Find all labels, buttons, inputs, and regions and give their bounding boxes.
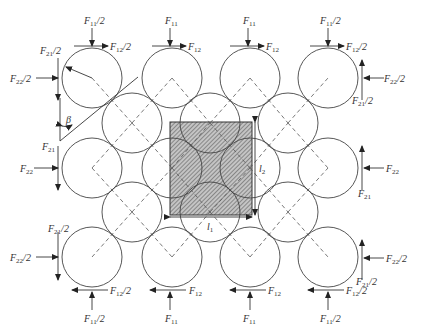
lattice-dashed-line <box>288 123 328 168</box>
label-F12-half-bottom-left: F12/2 <box>109 285 131 298</box>
lattice-dashed-line <box>210 78 250 123</box>
lattice-dashed-line <box>250 212 288 257</box>
lattice-dashed-line <box>92 123 132 168</box>
label-F21-half-left-bottom: F21/2 <box>47 223 69 236</box>
label-F22-half-right-top: F22/2 <box>383 73 405 86</box>
label-F22-half-right-bottom: F22/2 <box>385 253 407 266</box>
lattice-dashed-line <box>92 168 132 212</box>
dimension-l1: l1 <box>170 217 252 234</box>
label-F11-half-top-right: F11/2 <box>319 15 341 28</box>
lattice-dashed-line <box>172 78 210 123</box>
lattice-dashed-line <box>92 78 132 123</box>
lattice-dashed-line <box>288 78 328 123</box>
particle-packing-diagram: l2 l1 β F11/2 F12/2 F11 F12 F11 F12 F11/… <box>0 0 425 336</box>
label-F21-half-left-top: F21/2 <box>39 45 61 58</box>
label-F21-left-mid: F21 <box>41 141 56 154</box>
label-F11-half-bottom-left: F11/2 <box>83 313 105 326</box>
label-F11-bottom-3: F11 <box>242 313 256 326</box>
lattice-dashed-line <box>132 168 172 212</box>
label-F22-half-left-top: F22/2 <box>9 73 31 86</box>
label-F11-bottom-2: F11 <box>164 313 178 326</box>
label-F22-half-left-bottom: F22/2 <box>9 252 31 265</box>
particle-circle <box>298 48 358 108</box>
lattice-dashed-line <box>288 168 328 212</box>
label-F22-left-mid: F22 <box>19 163 34 176</box>
lattice-dashed-line <box>210 212 250 257</box>
lattice-dashed-line <box>250 78 288 123</box>
particle-circle <box>298 227 358 287</box>
radius-arrow <box>66 67 92 78</box>
lattice-dashed-line <box>132 123 172 168</box>
label-F11-half-bottom-right: F11/2 <box>319 313 341 326</box>
label-F11-top-2: F11 <box>164 15 178 28</box>
beta-slant-line <box>60 77 138 141</box>
beta-label: β <box>65 114 71 125</box>
dimension-l1-label: l1 <box>207 221 214 234</box>
lattice-dashed-line <box>92 212 132 257</box>
lattice-dashed-line <box>132 212 172 257</box>
label-F21-right-mid: F21 <box>357 188 372 201</box>
beta-arc <box>62 125 72 127</box>
lattice-dashed-line <box>250 168 288 212</box>
label-F22-right-mid: F22 <box>385 163 400 176</box>
lattice-dashed-line <box>132 78 172 123</box>
lattice-dashed-line <box>172 212 210 257</box>
label-F11-top-3: F11 <box>242 15 256 28</box>
lattice-dashed-line <box>250 123 288 168</box>
lattice-dashed-line <box>288 212 328 257</box>
label-F12-half-top-left: F12/2 <box>109 41 131 54</box>
label-F12-bottom-3: F12 <box>267 285 282 298</box>
dimension-l2-label: l2 <box>259 163 266 176</box>
label-F12-top-3: F12 <box>265 41 280 54</box>
label-F11-half-top-left: F11/2 <box>83 15 105 28</box>
label-F12-bottom-2: F12 <box>188 285 203 298</box>
label-F12-top-2: F12 <box>187 41 202 54</box>
beta-angle: β <box>60 77 138 141</box>
label-F12-half-top-right: F12/2 <box>345 41 367 54</box>
